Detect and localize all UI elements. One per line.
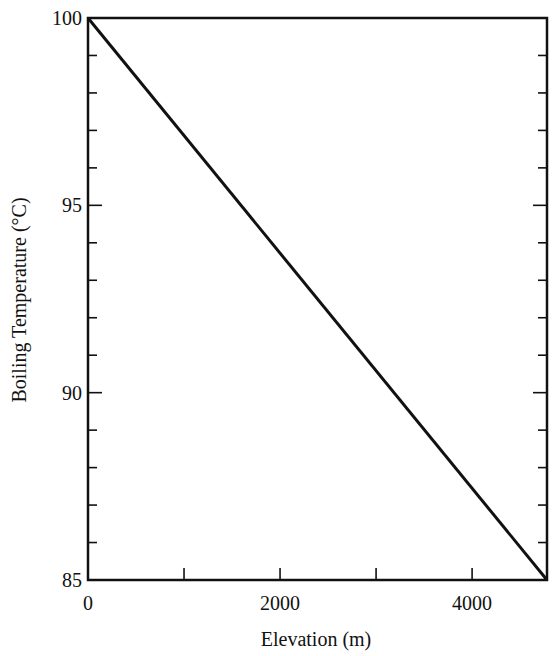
y-tick-labels: 859095100 <box>52 7 82 591</box>
y-tick-label: 90 <box>62 382 82 404</box>
y-tick-label: 85 <box>62 569 82 591</box>
x-tick-labels: 020004000 <box>83 592 492 614</box>
x-tick-label: 0 <box>83 592 93 614</box>
y-axis-title: Boiling Temperature (°C) <box>8 197 31 402</box>
axis-ticks <box>88 55 547 580</box>
x-axis-title: Elevation (m) <box>261 628 372 651</box>
y-tick-label: 95 <box>62 194 82 216</box>
x-tick-label: 2000 <box>260 592 300 614</box>
boiling-temperature-line <box>88 18 547 580</box>
boiling-temperature-chart: 020004000 859095100 Elevation (m) Boilin… <box>0 0 555 656</box>
x-tick-label: 4000 <box>452 592 492 614</box>
y-tick-label: 100 <box>52 7 82 29</box>
data-series <box>88 18 547 580</box>
